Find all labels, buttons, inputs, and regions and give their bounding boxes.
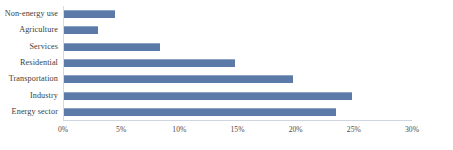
chart-row: Non-energy use xyxy=(63,6,412,22)
x-axis-line xyxy=(63,120,412,121)
bar-agriculture xyxy=(63,26,98,34)
chart-row: Energy sector xyxy=(63,104,412,120)
chart-row: Residential xyxy=(63,55,412,71)
chart-row: Transportation xyxy=(63,71,412,87)
x-tick-label: 5% xyxy=(116,126,126,134)
category-label: Agriculture xyxy=(19,26,58,34)
bar-residential xyxy=(63,59,235,67)
y-axis-line xyxy=(63,6,64,120)
bar-non-energy-use xyxy=(63,10,115,18)
bar-chart: Non-energy use Agriculture Services Resi… xyxy=(0,0,453,150)
x-tick-label: 30% xyxy=(405,126,419,134)
chart-row: Services xyxy=(63,39,412,55)
category-label: Non-energy use xyxy=(5,10,58,18)
category-label: Services xyxy=(29,43,58,51)
bar-energy-sector xyxy=(63,108,336,116)
category-label: Energy sector xyxy=(12,108,58,116)
bar-transportation xyxy=(63,75,293,83)
bar-services xyxy=(63,43,160,51)
chart-row: Agriculture xyxy=(63,22,412,38)
category-label: Transportation xyxy=(9,75,58,83)
x-tick-label: 10% xyxy=(172,126,186,134)
category-label: Industry xyxy=(30,91,58,99)
chart-row: Industry xyxy=(63,87,412,103)
bar-industry xyxy=(63,92,352,100)
category-label: Residential xyxy=(20,59,58,67)
x-tick-label: 0% xyxy=(58,126,68,134)
plot-area: Non-energy use Agriculture Services Resi… xyxy=(63,6,412,120)
x-tick-label: 25% xyxy=(347,126,361,134)
x-tick-label: 20% xyxy=(289,126,303,134)
x-tick-label: 15% xyxy=(231,126,245,134)
